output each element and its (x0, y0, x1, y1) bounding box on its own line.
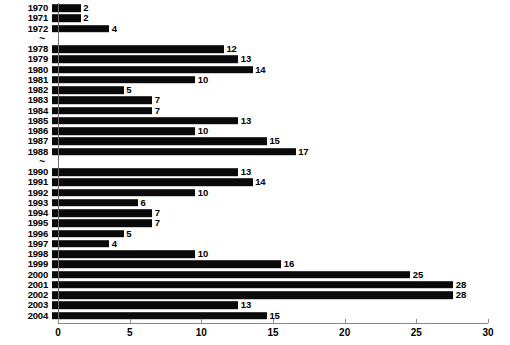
chart-row: 199916 (0, 259, 510, 269)
chart-row: 19957 (0, 218, 510, 228)
chart-row: 19847 (0, 106, 510, 116)
x-axis-tick-label: 20 (339, 327, 350, 339)
chart-row: 19947 (0, 208, 510, 218)
axis-break-row: ~ (0, 34, 510, 44)
bar (52, 291, 453, 299)
row-track: 10 (52, 188, 510, 198)
chart-row: 200128 (0, 280, 510, 290)
bar (52, 261, 281, 269)
row-track: 14 (52, 177, 510, 187)
bar-value-label: 17 (296, 147, 309, 157)
chart-row: 19702 (0, 3, 510, 13)
row-track: 7 (52, 106, 510, 116)
bar (52, 138, 267, 146)
bar-value-label: 12 (224, 44, 237, 54)
row-track: 6 (52, 198, 510, 208)
bar-value-label: 16 (281, 259, 294, 269)
bar (52, 25, 109, 33)
bar (52, 66, 253, 74)
bar (52, 45, 224, 53)
bar (52, 302, 238, 310)
bar-value-label: 28 (453, 290, 466, 300)
row-year-label: 1971 (0, 13, 52, 23)
y-axis-line (58, 3, 59, 321)
row-track: 2 (52, 3, 510, 13)
chart-row: 197812 (0, 44, 510, 54)
row-track: 12 (52, 44, 510, 54)
row-track: 13 (52, 167, 510, 177)
x-axis-line (58, 323, 488, 324)
bar-value-label: 5 (124, 229, 132, 239)
bar-value-label: 13 (238, 300, 251, 310)
chart-row: 198110 (0, 75, 510, 85)
chart-row: 19965 (0, 229, 510, 239)
chart-row: 199210 (0, 188, 510, 198)
chart-row: 198610 (0, 126, 510, 136)
chart-row: 200025 (0, 270, 510, 280)
bar (52, 189, 195, 197)
row-track: 10 (52, 126, 510, 136)
bar (52, 76, 195, 84)
chart-row: 199810 (0, 249, 510, 259)
row-track (52, 157, 510, 167)
bar-value-label: 7 (152, 106, 160, 116)
bar (52, 168, 238, 176)
chart-row: 19724 (0, 24, 510, 34)
bar-chart: 197021971219724~197812197913198014198110… (0, 0, 510, 345)
bar-value-label: 14 (253, 65, 266, 75)
row-year-label: 1995 (0, 218, 52, 228)
bar-value-label: 25 (410, 270, 423, 280)
row-track: 4 (52, 24, 510, 34)
x-axis-tick (273, 319, 274, 323)
chart-row: 19974 (0, 239, 510, 249)
x-axis-tick-label: 5 (127, 327, 133, 339)
chart-row: 19936 (0, 198, 510, 208)
row-track: 15 (52, 136, 510, 146)
bar-value-label: 15 (267, 136, 280, 146)
row-year-label: 2003 (0, 300, 52, 310)
row-track: 15 (52, 311, 510, 321)
chart-row: 200313 (0, 300, 510, 310)
bar (52, 199, 138, 207)
bar (52, 220, 152, 228)
row-track (52, 34, 510, 44)
row-track: 5 (52, 85, 510, 95)
chart-row: 198715 (0, 136, 510, 146)
row-track: 13 (52, 54, 510, 64)
x-axis-tick-label: 10 (196, 327, 207, 339)
bar (52, 86, 124, 94)
bar (52, 15, 81, 23)
x-axis-tick-label: 25 (411, 327, 422, 339)
axis-break-marker: ~ (0, 159, 52, 165)
bar-value-label: 10 (195, 126, 208, 136)
bar-value-label: 4 (109, 24, 117, 34)
bar (52, 179, 253, 187)
bar-value-label: 2 (81, 13, 89, 23)
chart-row: 200415 (0, 311, 510, 321)
chart-row: 19712 (0, 13, 510, 23)
bar-value-label: 13 (238, 167, 251, 177)
bar-value-label: 13 (238, 54, 251, 64)
bar-value-label: 4 (109, 239, 117, 249)
x-axis-tick (416, 319, 417, 323)
bar (52, 250, 195, 258)
row-track: 4 (52, 239, 510, 249)
row-year-label: 2004 (0, 311, 52, 321)
chart-row: 19837 (0, 95, 510, 105)
row-track: 25 (52, 270, 510, 280)
row-year-label: 1983 (0, 95, 52, 105)
bar (52, 271, 410, 279)
x-axis-tick (201, 319, 202, 323)
bar-value-label: 10 (195, 249, 208, 259)
bar (52, 97, 152, 105)
bar (52, 4, 81, 12)
chart-row: 199114 (0, 177, 510, 187)
bar (52, 148, 296, 156)
chart-row: 19825 (0, 85, 510, 95)
x-axis-tick (130, 319, 131, 323)
bar-value-label: 6 (138, 198, 146, 208)
row-track: 14 (52, 65, 510, 75)
row-year-label: 1991 (0, 177, 52, 187)
row-track: 10 (52, 249, 510, 259)
chart-row: 200228 (0, 290, 510, 300)
